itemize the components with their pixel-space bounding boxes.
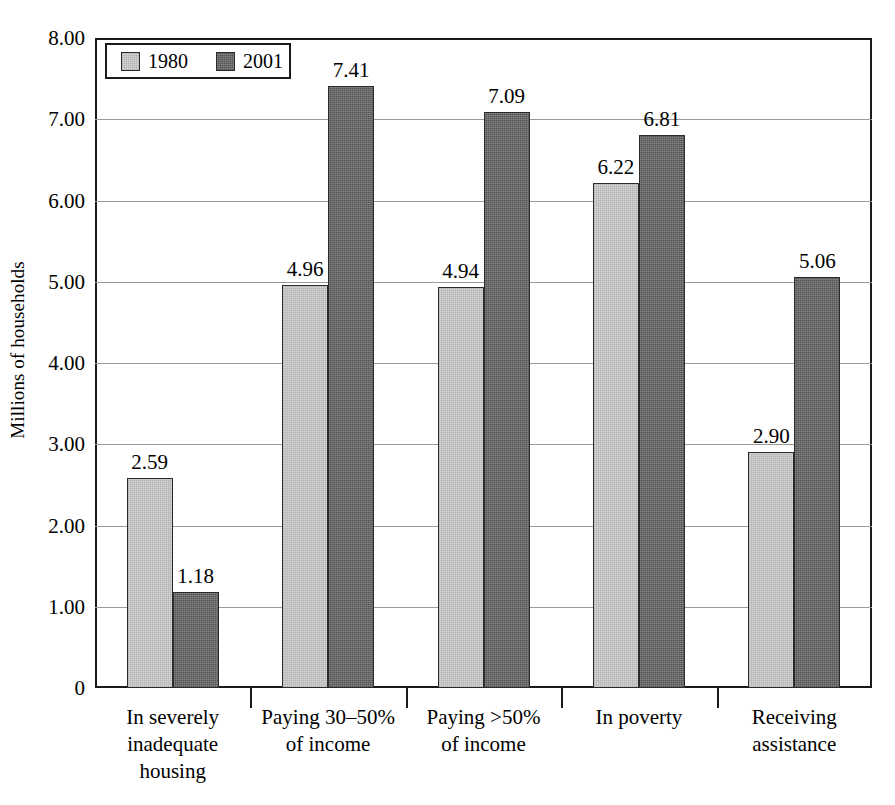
bar-2001-0 [173,592,219,688]
y-axis-tick-label: 6.00 [9,190,95,211]
bar-value-label: 5.06 [782,251,852,277]
legend-swatch-1980-icon [121,52,140,71]
x-axis-category-label: Receiving assistance [717,704,872,758]
bar-2001-3 [639,135,685,688]
legend-label-1980: 1980 [148,51,188,71]
plot-content: 2.591.184.967.414.947.096.226.812.905.06 [95,38,872,688]
legend: 1980 2001 [105,43,291,79]
bar-2001-1 [328,86,374,688]
y-axis-tick-label: 4.00 [9,353,95,374]
bar-1980-4 [748,452,794,688]
x-axis-tick [406,688,408,708]
y-axis-tick-label: 5.00 [9,271,95,292]
x-axis-category-label: Paying 30–50% of income [250,704,405,758]
y-axis-tick-label: 7.00 [9,109,95,130]
x-axis-tick [561,688,563,708]
y-axis-tick-label: 2.00 [9,515,95,536]
legend-label-2001: 2001 [243,51,283,71]
bar-2001-4 [794,277,840,688]
bar-1980-2 [438,287,484,688]
y-axis-tick-label: 8.00 [9,28,95,49]
x-axis-category-label: In poverty [561,704,716,731]
bar-1980-1 [282,285,328,688]
bar-value-label: 1.18 [161,566,231,592]
y-axis-tick-label: 1.00 [9,596,95,617]
y-axis-tick-labels: 8.007.006.005.004.003.002.001.000 [0,38,95,688]
bar-value-label: 7.41 [316,60,386,86]
x-axis-tick [250,688,252,708]
legend-item-2001: 2001 [216,51,283,71]
legend-item-1980: 1980 [121,51,188,71]
x-axis-category-label: In severely inadequate housing [95,704,250,785]
y-axis-tick-label: 3.00 [9,434,95,455]
bar-chart: Millions of households 8.007.006.005.004… [0,0,895,805]
bar-value-label: 6.81 [627,109,697,135]
bar-value-label: 2.59 [115,452,185,478]
bar-2001-2 [484,112,530,688]
legend-swatch-2001-icon [216,52,235,71]
x-axis-category-label: Paying >50% of income [406,704,561,758]
bar-1980-3 [593,183,639,688]
y-axis-tick-label: 0 [9,678,95,699]
bar-value-label: 7.09 [472,86,542,112]
x-axis-tick [717,688,719,708]
